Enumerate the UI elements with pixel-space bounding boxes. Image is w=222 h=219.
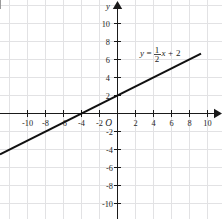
y-tick-label: -10 (102, 200, 113, 209)
equation-annotation: y = 1 2 x + 2 (139, 45, 181, 65)
x-axis-arrow-icon (214, 109, 222, 118)
equation-lhs: y (139, 48, 144, 58)
y-axis-label: y (105, 1, 110, 11)
plotted-line-series (0, 54, 201, 155)
x-tick-label: 8 (187, 119, 191, 128)
x-tick-label: 10 (203, 119, 211, 128)
y-tick-label: -8 (106, 182, 113, 191)
equation-constant: 2 (176, 48, 181, 58)
x-tick-label: -6 (60, 119, 67, 128)
y-tick-label: 2 (106, 92, 110, 101)
x-tick-label: -4 (78, 119, 86, 128)
x-tick-label: 2 (133, 119, 137, 128)
graph-canvas: -10 -8 -6 -4 -2 2 4 6 8 10 10 8 6 4 2 -2… (0, 0, 222, 219)
x-axis-tick-labels: -10 -8 -6 -4 -2 2 4 6 8 10 (22, 119, 212, 128)
y-tick-label: 6 (106, 56, 110, 65)
horizontal-gridlines (0, 6, 222, 204)
y-tick-label: 10 (102, 20, 110, 29)
y-tick-label: -6 (106, 164, 113, 173)
x-axis (0, 109, 222, 118)
y-tick-label: -2 (106, 128, 113, 137)
x-tick-label: -8 (42, 119, 49, 128)
origin-label: O (105, 118, 112, 128)
y-tick-label: 8 (106, 38, 110, 47)
x-tick-label: -2 (96, 119, 103, 128)
equation-denominator: 2 (155, 54, 160, 64)
equation-equals: = (147, 48, 152, 58)
line-y-equals-half-x-plus-2 (0, 54, 201, 155)
equation-plus: + (168, 48, 173, 58)
y-axis (113, 1, 122, 219)
x-tick-label: 4 (151, 119, 156, 128)
equation-numerator: 1 (155, 45, 160, 55)
x-tick-label: 6 (169, 119, 173, 128)
x-tick-label: -10 (22, 119, 33, 128)
equation-variable: x (161, 48, 166, 58)
coordinate-plane-graph: -10 -8 -6 -4 -2 2 4 6 8 10 10 8 6 4 2 -2… (0, 0, 222, 219)
y-tick-label: -4 (106, 146, 114, 155)
